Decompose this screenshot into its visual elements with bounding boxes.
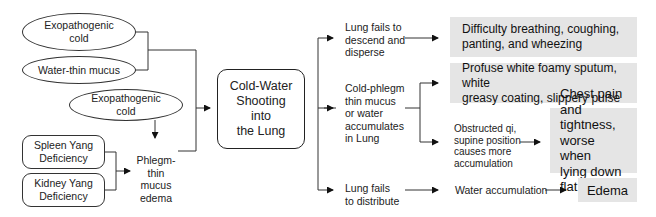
result-edema: Edema (578, 178, 637, 202)
center-node: Cold-Water Shooting into the Lung (217, 69, 305, 149)
mechanism-descend: Lung fails to descend and disperse (345, 21, 405, 59)
cause-water-thin-mucus: Water-thin mucus (22, 56, 136, 84)
mechanism-accumulates: Cold-phlegm thin mucus or water accumula… (345, 82, 405, 145)
mechanism-obstructed: Obstructed qi, supine position causes mo… (454, 123, 521, 169)
cause-kidney-yang-deficiency: Kidney Yang Deficiency (22, 173, 105, 207)
cause-phlegm-edema: Phlegm- thin mucus edema (132, 154, 180, 204)
result-breathing: Difficulty breathing, coughing, panting,… (450, 17, 637, 57)
cause-spleen-yang-deficiency: Spleen Yang Deficiency (22, 135, 105, 169)
mechanism-water-accumulation: Water accumulation (455, 184, 547, 197)
cause-exopathogenic-cold-top: Exopathogenic cold (22, 13, 136, 51)
result-chest-pain: Chest pain and tightness, worse when lyi… (550, 108, 637, 173)
cause-exopathogenic-cold-bottom: Exopathogenic cold (69, 89, 183, 121)
mechanism-distribute: Lung fails to distribute (345, 182, 399, 207)
